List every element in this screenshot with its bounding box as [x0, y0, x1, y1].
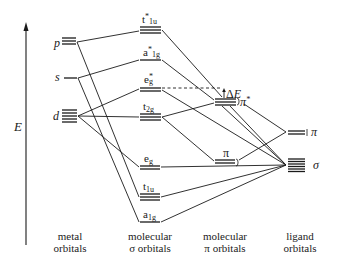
- correlation-lines: [77, 30, 286, 222]
- metal-p-level: [62, 38, 76, 44]
- svg-text:t*1u: t*1u: [142, 12, 157, 26]
- axis-arrow-icon: [24, 22, 29, 31]
- svg-text:eg: eg: [144, 152, 153, 166]
- sigma-t1u: t1u: [140, 180, 160, 200]
- svg-text:π: π: [311, 125, 318, 139]
- energy-axis: E: [13, 22, 29, 245]
- svg-text:π: π: [223, 146, 229, 160]
- col-label-metal-2: orbitals: [54, 242, 87, 254]
- metal-p-label: p: [53, 36, 60, 50]
- energy-axis-label: E: [13, 119, 22, 134]
- col-label-sigma: molecular: [128, 230, 172, 242]
- ligand-pi-level: π: [288, 125, 318, 139]
- sigma-a1g: a1g: [140, 208, 160, 222]
- ligand-sigma-level: σ: [288, 158, 320, 172]
- col-label-pi-2: π orbitals: [204, 242, 245, 254]
- sigma-t2g: t2g: [140, 100, 161, 120]
- col-label-metal: metal: [58, 230, 82, 242]
- mo-diagram: E p s d t*1u a*1g: [0, 0, 338, 262]
- sigma-a1g-star: a*1g: [140, 45, 161, 60]
- col-label-ligand: ligand: [286, 230, 314, 242]
- svg-text:a1g: a1g: [143, 208, 156, 222]
- col-label-sigma-2: σ orbitals: [129, 242, 171, 254]
- pi-bonding-level: π: [215, 146, 238, 166]
- svg-text:t1u: t1u: [143, 180, 154, 194]
- sigma-t1u-star: t*1u: [140, 12, 161, 33]
- metal-s-label: s: [55, 70, 60, 84]
- metal-orbitals: p s d: [53, 36, 77, 123]
- col-label-pi: molecular: [203, 230, 247, 242]
- svg-text:a*1g: a*1g: [143, 45, 160, 59]
- svg-text:e*g: e*g: [144, 72, 153, 86]
- metal-d-level: [62, 110, 77, 122]
- col-label-ligand-2: orbitals: [284, 242, 317, 254]
- sigma-orbitals: t*1u a*1g e*g t2g eg: [140, 12, 161, 222]
- metal-d-label: d: [53, 109, 60, 123]
- svg-text:σ: σ: [313, 158, 320, 172]
- svg-text:t2g: t2g: [143, 100, 154, 114]
- ligand-orbitals: π σ: [288, 125, 320, 172]
- column-labels: metal orbitals molecular σ orbitals mole…: [54, 230, 317, 254]
- sigma-eg-star: e*g: [140, 72, 161, 91]
- sigma-eg: eg: [140, 152, 160, 169]
